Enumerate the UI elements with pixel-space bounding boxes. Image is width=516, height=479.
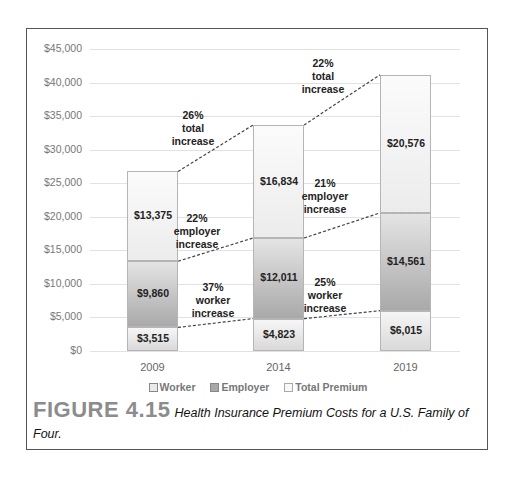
increase-annotation: 21%employerincrease <box>285 177 365 216</box>
legend-label: Total Premium <box>295 381 367 393</box>
total-premium-swatch-icon <box>284 383 293 392</box>
chart-legend: Worker Employer Total Premium <box>0 381 516 393</box>
legend-item-employer: Employer <box>210 381 269 393</box>
legend-item-worker: Worker <box>149 381 196 393</box>
legend-item-total-premium: Total Premium <box>284 381 367 393</box>
increase-annotation: 37%workerincrease <box>173 281 253 320</box>
figure-caption: FIGURE 4.15Health Insurance Premium Cost… <box>33 400 473 444</box>
legend-label: Employer <box>221 381 269 393</box>
employer-swatch-icon <box>210 383 219 392</box>
figure-number: FIGURE 4.15 <box>33 397 171 422</box>
legend-label: Worker <box>160 381 196 393</box>
increase-annotation: 26%totalincrease <box>153 109 233 148</box>
increase-annotation: 22%employerincrease <box>157 212 237 251</box>
increase-annotation: 25%workerincrease <box>285 276 365 315</box>
worker-swatch-icon <box>149 383 158 392</box>
increase-annotation: 22%totalincrease <box>283 57 363 96</box>
